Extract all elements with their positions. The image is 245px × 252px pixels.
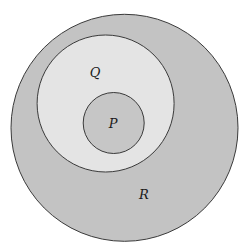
set-r-label: R	[138, 187, 149, 202]
set-p-label: P	[108, 116, 118, 131]
nested-set-diagram: Q P R	[0, 0, 245, 252]
set-q-label: Q	[90, 65, 101, 80]
